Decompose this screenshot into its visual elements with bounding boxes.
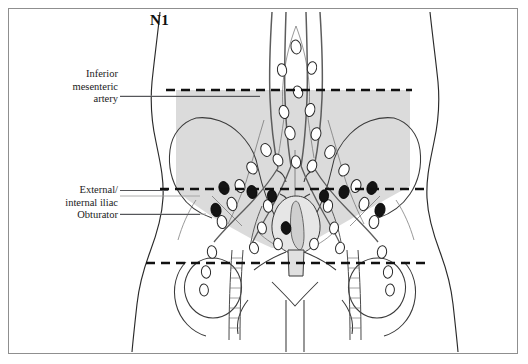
label-line: Obturator — [8, 209, 118, 222]
label-obturator: Obturator — [8, 209, 118, 222]
page-title: N1 — [150, 12, 169, 29]
label-external-internal-iliac: External/ internal iliac — [8, 184, 118, 209]
label-line: artery — [8, 93, 118, 106]
leader-line-external-internal-iliac — [120, 190, 168, 191]
label-line: internal iliac — [8, 197, 118, 210]
label-line: Inferior — [8, 68, 118, 81]
leader-line-obturator — [120, 214, 200, 215]
figure-n1: N1 Inferior mesenteric artery External/ … — [0, 0, 528, 364]
leader-line-inferior-mesenteric-artery — [120, 96, 260, 97]
label-line: External/ — [8, 184, 118, 197]
label-line: mesenteric — [8, 81, 118, 94]
label-inferior-mesenteric-artery: Inferior mesenteric artery — [8, 68, 118, 106]
anatomy-illustration — [0, 0, 528, 364]
